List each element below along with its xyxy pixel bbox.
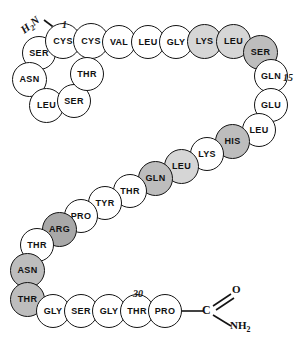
residue-label: VAL	[110, 38, 128, 47]
residue-label: LYS	[196, 37, 214, 46]
amide-nh: NH	[230, 319, 247, 331]
residue-label: SER	[251, 48, 270, 57]
residue-label: GLY	[100, 307, 119, 316]
position-marker: 30	[133, 288, 143, 299]
residue-label: THR	[27, 241, 46, 250]
residue-label: ASN	[18, 266, 38, 275]
residue-label: PRO	[155, 307, 175, 316]
residue-label: CYS	[53, 37, 72, 46]
residue-label: LEU	[37, 101, 56, 110]
residue-label: LEU	[172, 162, 191, 171]
residue-label: GLN	[261, 72, 281, 81]
residue-label: LEU	[139, 38, 158, 47]
residue-label: THR	[120, 187, 139, 196]
residue-label: ARG	[49, 225, 70, 234]
amide-subscript: 2	[247, 325, 251, 334]
residue-circle: PRO	[148, 294, 182, 328]
residue-label: GLY	[167, 38, 186, 47]
residue-label: GLN	[146, 174, 166, 183]
residue-label: LEU	[250, 126, 269, 135]
amide-bond-line	[213, 315, 231, 326]
c-terminus-carbon-label: C	[202, 303, 211, 318]
residue-label: HIS	[225, 137, 241, 146]
peptide-diagram-canvas: H2N C O NH2 SERCYSCYSVALLEUGLYLYSLEUSERG…	[0, 0, 302, 343]
residue-label: SER	[71, 307, 90, 316]
position-marker: 1	[62, 19, 67, 30]
residue-label: LYS	[198, 150, 216, 159]
residue-label: GLU	[261, 101, 281, 110]
position-marker: 15	[283, 72, 293, 83]
c-terminus-amide-label: NH2	[230, 319, 250, 334]
residue-label: THR	[18, 295, 37, 304]
residue-label: SER	[29, 49, 48, 58]
c-terminus-oxygen-label: O	[232, 283, 241, 295]
residue-circle: THR	[70, 57, 104, 91]
residue-label: GLY	[44, 307, 63, 316]
residue-label: CYS	[81, 37, 100, 46]
residue-label: LEU	[224, 37, 243, 46]
carbonyl-bond-b	[216, 298, 234, 310]
residue-label: THR	[77, 70, 96, 79]
residue-label: THR	[127, 307, 146, 316]
residue-label: SER	[64, 97, 83, 106]
residue-label: ASN	[20, 75, 40, 84]
residue-label: TYR	[96, 199, 115, 208]
carbonyl-bond-a	[213, 294, 231, 306]
